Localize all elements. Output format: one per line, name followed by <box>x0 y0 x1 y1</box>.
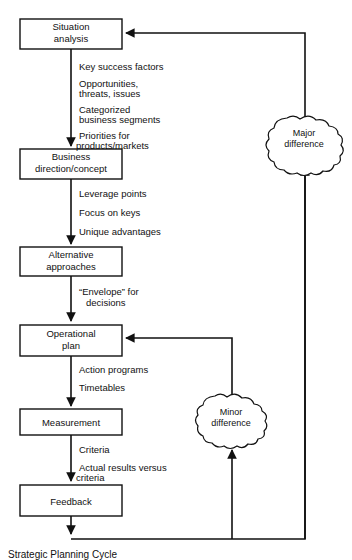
edge-label-situation-to-business: Key success factors Opportunities, threa… <box>76 61 164 151</box>
node-label-line-1: Alternative <box>49 249 94 260</box>
edge-label-line: Criteria <box>79 444 110 455</box>
edge-label-operational-to-measurement: Action programs Timetables <box>79 364 148 393</box>
edge-label-line: decisions <box>86 297 126 308</box>
node-label-line-1: Measurement <box>42 417 100 428</box>
node-label-line-2: approaches <box>46 261 96 272</box>
node-label-line-1: Situation <box>53 21 90 32</box>
edge-label-measurement-to-feedback: Criteria Actual results versus criteria <box>76 444 167 483</box>
edge-label-line: products/markets <box>76 140 149 151</box>
edge-label-line: Key success factors <box>79 61 164 72</box>
cloud-label-line-2: difference <box>211 418 250 428</box>
edge-label-alternative-to-operational: “Envelope” for decisions <box>79 286 139 308</box>
edge-major-to-situation <box>126 33 305 118</box>
edge-label-line: Unique advantages <box>79 226 161 237</box>
cloud-label-line-1: Major <box>293 128 316 138</box>
node-operational-plan[interactable]: Operational plan <box>20 325 122 356</box>
node-label-line-1: Feedback <box>50 496 92 507</box>
node-label-line-1: Operational <box>46 328 95 339</box>
flowchart-diagram: Situation analysis Business direction/co… <box>0 0 352 560</box>
edge-label-line: threats, issues <box>79 88 140 99</box>
edge-label-line: Timetables <box>79 382 125 393</box>
edge-label-line: criteria <box>76 472 105 483</box>
cloud-major-difference[interactable]: Major difference <box>266 116 343 175</box>
cloud-label-line-2: difference <box>284 139 323 149</box>
node-label-line-1: Business <box>52 151 91 162</box>
cloud-minor-difference[interactable]: Minor difference <box>196 394 267 448</box>
edge-label-line: business segments <box>79 114 161 125</box>
node-label-line-2: analysis <box>54 33 89 44</box>
edge-label-business-to-alternative: Leverage points Focus on keys Unique adv… <box>79 188 161 237</box>
edge-label-line: Focus on keys <box>79 207 140 218</box>
edge-label-line: Leverage points <box>79 188 147 199</box>
node-business-direction[interactable]: Business direction/concept <box>20 149 122 179</box>
cloud-label-line-1: Minor <box>220 407 243 417</box>
figure-caption: Strategic Planning Cycle <box>8 549 117 560</box>
node-label-line-2: plan <box>62 340 80 351</box>
figure-canvas: Situation analysis Business direction/co… <box>0 0 352 560</box>
node-situation-analysis[interactable]: Situation analysis <box>20 19 122 49</box>
node-alternative-approaches[interactable]: Alternative approaches <box>20 247 122 276</box>
node-feedback[interactable]: Feedback <box>20 485 122 516</box>
edge-label-line: Action programs <box>79 364 148 375</box>
edge-label-line: “Envelope” for <box>79 286 139 297</box>
node-measurement[interactable]: Measurement <box>20 409 122 435</box>
node-label-line-2: direction/concept <box>35 163 107 174</box>
